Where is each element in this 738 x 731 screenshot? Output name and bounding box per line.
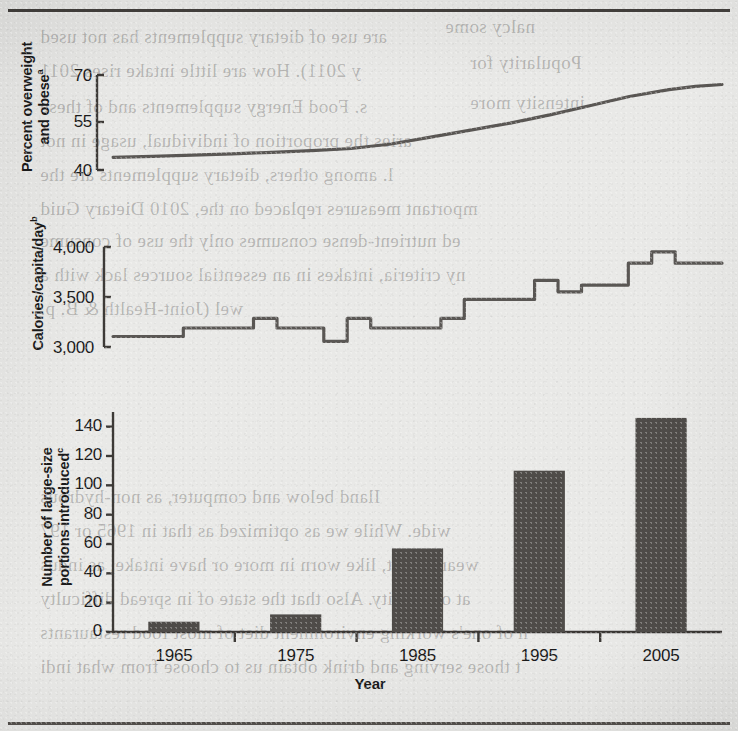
chart-svg-calories bbox=[0, 195, 738, 390]
ytick-label-0: 0 bbox=[50, 621, 102, 641]
bar-1975 bbox=[270, 614, 321, 632]
axis-title-percent-overweight: Percent overweight and obesea bbox=[19, 41, 53, 173]
xtick-marks-portions bbox=[235, 632, 600, 642]
ytick-label-140: 140 bbox=[50, 416, 102, 436]
panel-large-size-portions: Number of large-size portions introduced… bbox=[0, 390, 738, 725]
ytick-mid-3000: 3,000 bbox=[22, 338, 94, 358]
ytick-top-40: 40 bbox=[52, 161, 92, 181]
figure-top-rule bbox=[8, 9, 730, 12]
ytick-top-70: 70 bbox=[52, 66, 92, 86]
xtick-label-2005: 2005 bbox=[621, 646, 701, 666]
xtick-label-1975: 1975 bbox=[256, 646, 336, 666]
ytick-label-100: 100 bbox=[50, 474, 102, 494]
data-line-percent-overweight bbox=[113, 85, 722, 158]
axis-title-line2: and obese bbox=[36, 75, 52, 145]
panel-percent-overweight: Percent overweight and obesea 70 55 40 bbox=[0, 20, 738, 195]
figure-page: are use of dietary supplements has not u… bbox=[0, 0, 738, 731]
bar-1965 bbox=[148, 622, 199, 632]
bar-1995 bbox=[514, 471, 565, 632]
chart-svg-percent-overweight bbox=[0, 20, 738, 195]
axis-title-line1: Percent overweight bbox=[19, 42, 35, 172]
ytick-top-55: 55 bbox=[52, 112, 92, 132]
data-line-calories bbox=[113, 252, 722, 341]
ytick-label-40: 40 bbox=[50, 562, 102, 582]
axis-title-superscript: b bbox=[28, 217, 39, 223]
xtick-label-1995: 1995 bbox=[499, 646, 579, 666]
ytick-label-120: 120 bbox=[50, 445, 102, 465]
bar-group bbox=[148, 418, 686, 632]
bar-2005 bbox=[636, 418, 687, 632]
bar-1985 bbox=[392, 548, 443, 632]
ytick-mid-4000: 4,000 bbox=[22, 238, 94, 258]
ytick-mid-3500: 3,500 bbox=[22, 288, 94, 308]
axis-title-year: Year bbox=[330, 675, 410, 692]
ytick-label-80: 80 bbox=[50, 504, 102, 524]
ytick-label-60: 60 bbox=[50, 533, 102, 553]
xtick-label-1965: 1965 bbox=[134, 646, 214, 666]
axis-title-superscript: a bbox=[34, 70, 45, 75]
ytick-label-20: 20 bbox=[50, 592, 102, 612]
xtick-label-1985: 1985 bbox=[378, 646, 458, 666]
panel-calories-per-capita: Calories/capita/dayb 4,000 3,500 3,000 bbox=[0, 195, 738, 390]
